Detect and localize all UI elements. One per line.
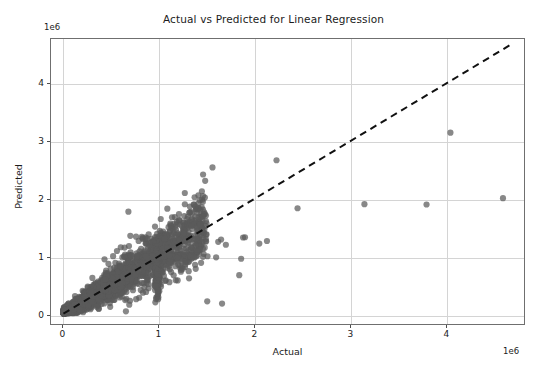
x-tick-label: 1 — [156, 329, 162, 339]
y-tick-label: 2 — [14, 194, 44, 204]
chart-title: Actual vs Predicted for Linear Regressio… — [0, 13, 547, 25]
x-axis-exponent-label: 1e6 — [503, 346, 519, 356]
y-axis-label: Predicted — [13, 147, 24, 227]
identity-reference-line — [51, 39, 524, 324]
x-tick-mark — [254, 325, 255, 328]
y-axis-exponent-label: 1e6 — [44, 22, 60, 32]
y-tick-label: 0 — [14, 310, 44, 320]
plot-area — [50, 38, 525, 325]
y-tick-mark — [47, 83, 50, 84]
y-tick-mark — [47, 141, 50, 142]
chart-figure: Actual vs Predicted for Linear Regressio… — [0, 0, 547, 380]
y-tick-mark — [47, 199, 50, 200]
x-tick-mark — [446, 325, 447, 328]
y-tick-label: 1 — [14, 252, 44, 262]
x-tick-mark — [62, 325, 63, 328]
y-tick-label: 3 — [14, 136, 44, 146]
y-tick-label: 4 — [14, 78, 44, 88]
x-tick-mark — [350, 325, 351, 328]
x-tick-label: 3 — [347, 329, 353, 339]
identity-line — [63, 44, 512, 314]
x-tick-mark — [158, 325, 159, 328]
x-tick-label: 0 — [60, 329, 66, 339]
y-tick-mark — [47, 257, 50, 258]
x-axis-label: Actual — [50, 346, 525, 357]
x-tick-label: 2 — [252, 329, 258, 339]
x-tick-label: 4 — [443, 329, 449, 339]
y-tick-mark — [47, 315, 50, 316]
